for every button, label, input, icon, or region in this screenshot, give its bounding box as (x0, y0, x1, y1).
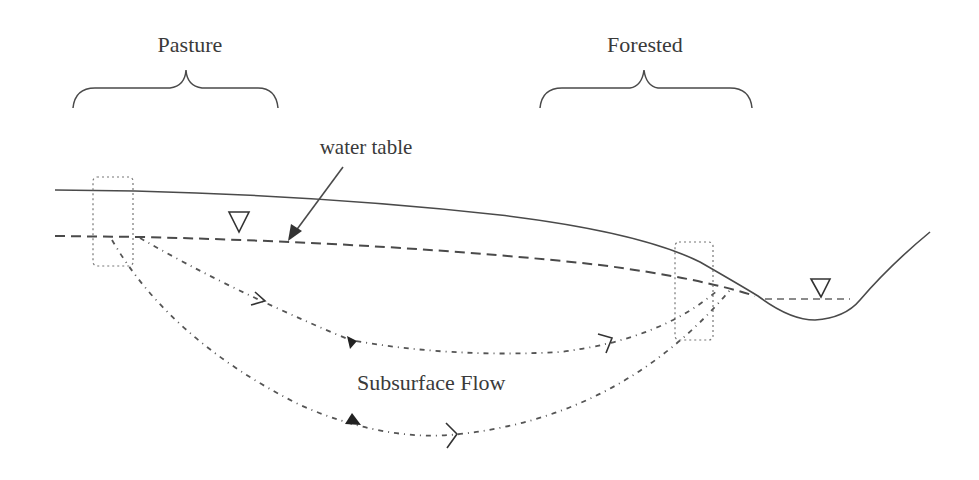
forested-label: Forested (607, 32, 683, 57)
forested-sampling-box (675, 242, 713, 340)
flow-arrowhead-icon (347, 336, 357, 349)
pasture-brace (73, 70, 278, 108)
water-level-triangle-stream-icon (811, 279, 830, 297)
hydrology-diagram: Pasture Forested water table Subsurface … (0, 0, 979, 480)
flow-chevron-icon (446, 423, 457, 448)
subsurface-flow-label: Subsurface Flow (357, 370, 506, 395)
pasture-label: Pasture (158, 32, 223, 57)
shallow-flow-path (140, 238, 718, 354)
flow-chevron-icon (251, 292, 265, 305)
forested-brace (540, 70, 752, 108)
water-level-triangle-pasture-icon (229, 212, 249, 232)
water-table-label: water table (320, 135, 413, 159)
flow-arrowhead-icon (345, 413, 361, 425)
water-table-dashed-line (55, 236, 755, 296)
